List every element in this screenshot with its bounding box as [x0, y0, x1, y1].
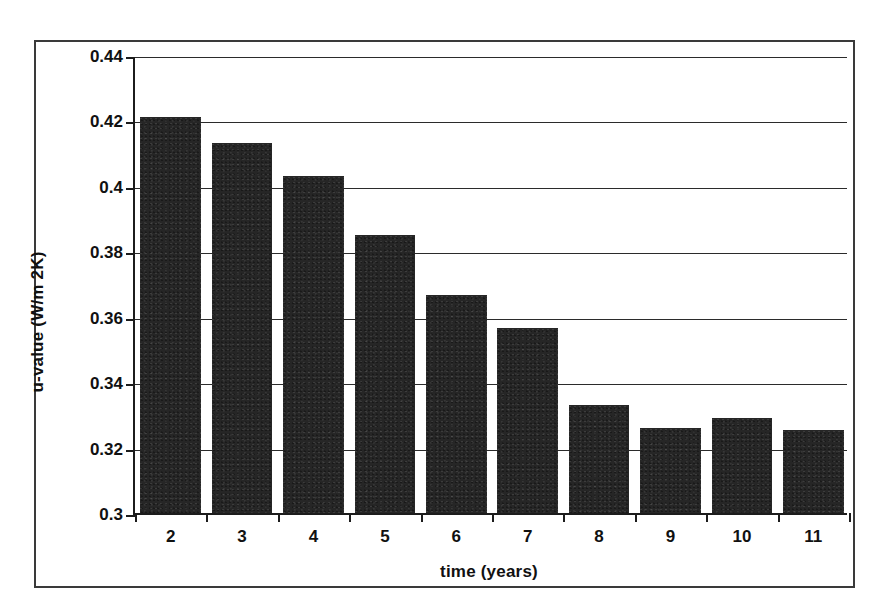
x-axis-tick [706, 513, 708, 522]
y-axis-tick-label: 0.42 [90, 112, 123, 132]
x-axis-tick-label: 11 [804, 527, 822, 547]
x-axis-tick-label: 7 [523, 527, 532, 547]
x-axis-tick [206, 513, 208, 522]
plot-area: 0.30.320.340.360.380.40.420.44 234567891… [133, 57, 847, 515]
bar [283, 176, 344, 513]
y-axis-tick-label: 0.4 [99, 178, 123, 198]
y-axis-tick [126, 319, 135, 321]
bar [140, 117, 201, 513]
x-axis-tick-label: 9 [666, 527, 675, 547]
y-axis-tick [126, 188, 135, 190]
y-axis-tick-label: 0.38 [90, 243, 123, 263]
y-axis-tick-label: 0.32 [90, 440, 123, 460]
y-axis-tick [126, 450, 135, 452]
x-axis-tick [278, 513, 280, 522]
bar [212, 143, 273, 513]
x-axis-tick-label: 2 [166, 527, 175, 547]
y-axis-tick-label: 0.36 [90, 309, 123, 329]
x-axis-tick-label: 4 [309, 527, 318, 547]
x-axis-tick [421, 513, 423, 522]
bar [783, 430, 844, 513]
y-axis-tick-label: 0.34 [90, 374, 123, 394]
chart-figure-frame: u-value (W/m 2K) 0.30.320.340.360.380.40… [34, 40, 855, 588]
x-axis-tick [563, 513, 565, 522]
y-axis-tick [126, 515, 135, 517]
y-axis-tick-label: 0.3 [99, 505, 123, 525]
bar [355, 235, 416, 513]
x-axis-tick [635, 513, 637, 522]
x-axis-tick [349, 513, 351, 522]
x-axis-tick [849, 513, 851, 522]
y-axis-tick [126, 57, 135, 59]
x-axis-tick [135, 513, 137, 522]
x-axis-tick [778, 513, 780, 522]
x-axis-tick-label: 6 [452, 527, 461, 547]
y-axis-tick [126, 122, 135, 124]
x-axis-tick-label: 3 [237, 527, 246, 547]
y-axis-tick-label: 0.44 [90, 47, 123, 67]
y-axis-tick [126, 384, 135, 386]
y-axis-tick [126, 253, 135, 255]
bar [712, 418, 773, 513]
x-axis-title: time (years) [133, 562, 845, 582]
x-axis-tick-label: 10 [732, 527, 751, 547]
bar [497, 328, 558, 513]
bar [569, 405, 630, 513]
bars-group [135, 57, 847, 513]
x-axis-tick [492, 513, 494, 522]
x-axis-tick-label: 8 [594, 527, 603, 547]
x-axis-tick-label: 5 [380, 527, 389, 547]
bar [640, 428, 701, 513]
bar [426, 295, 487, 513]
y-axis-title: u-value (W/m 2K) [28, 162, 52, 482]
